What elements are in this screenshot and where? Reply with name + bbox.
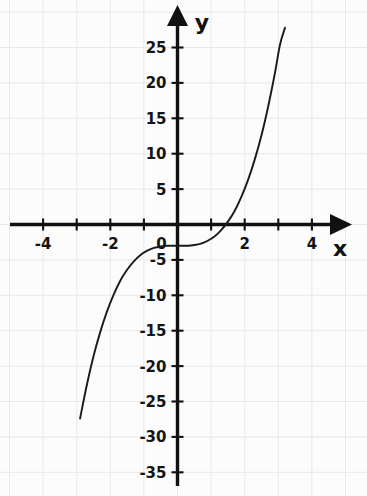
y-tick-label: 25 — [146, 39, 167, 57]
y-tick-label: -15 — [139, 322, 166, 340]
x-tick-label: 4 — [307, 235, 317, 253]
y-tick-label: -10 — [139, 287, 166, 305]
y-tick-label: -5 — [150, 251, 167, 269]
x-tick-label: 0 — [156, 235, 166, 253]
x-tick-label: -2 — [102, 235, 119, 253]
y-tick-label: -25 — [139, 393, 166, 411]
x-axis-label: x — [333, 236, 347, 261]
y-tick-label: 5 — [156, 181, 166, 199]
y-tick-label: 15 — [146, 110, 167, 128]
plot-svg: -4-2024 252015105-5-10-15-20-25-30-35 x … — [0, 0, 367, 496]
y-tick-label: -20 — [139, 358, 166, 376]
x-tick-label: -4 — [35, 235, 52, 253]
cubic-function-graph: -4-2024 252015105-5-10-15-20-25-30-35 x … — [0, 0, 367, 496]
y-tick-label: 20 — [146, 74, 167, 92]
y-tick-label: 10 — [146, 145, 167, 163]
x-tick-label: 2 — [239, 235, 249, 253]
y-tick-label: -30 — [139, 428, 166, 446]
y-tick-label: -35 — [139, 464, 166, 482]
y-axis-label: y — [195, 10, 209, 35]
